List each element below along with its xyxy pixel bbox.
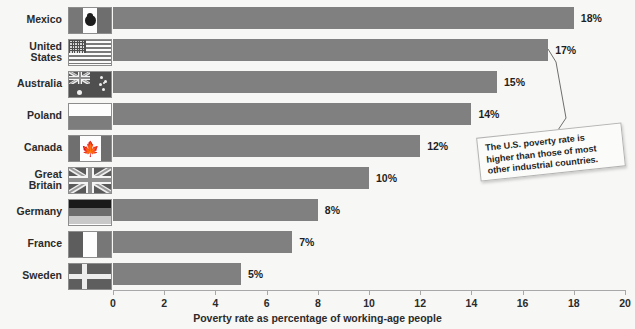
- bar-value-label: 15%: [504, 71, 525, 93]
- bar-value-label: 12%: [427, 135, 448, 157]
- x-axis-tick: [113, 290, 114, 295]
- country-name-label: Mexico: [26, 14, 68, 26]
- flag-mexico-icon: [68, 7, 112, 34]
- flag-france-icon: [68, 231, 112, 258]
- bar-poland: [113, 103, 471, 125]
- country-name-label: Great Britain: [0, 169, 68, 192]
- flag-great-britain-icon: [68, 167, 112, 194]
- x-axis-tick: [215, 290, 216, 295]
- flag-germany-icon: [68, 199, 112, 226]
- bar-value-label: 10%: [376, 167, 397, 189]
- x-axis-tick: [523, 290, 524, 295]
- x-axis-tick: [164, 290, 165, 295]
- country-row-poland: Poland: [0, 100, 112, 132]
- bar-sweden: [113, 263, 241, 285]
- bar-france: [113, 231, 292, 253]
- country-name-label: Canada: [24, 142, 68, 154]
- bar-value-label: 17%: [555, 39, 576, 61]
- x-axis-tick: [625, 290, 626, 295]
- country-label-column: MexicoUnited StatesAustraliaPolandCanada…: [0, 0, 112, 290]
- bar-value-label: 18%: [581, 7, 602, 29]
- country-name-label: Poland: [27, 110, 68, 122]
- x-axis-tick: [318, 290, 319, 295]
- x-axis-tick-label: 6: [264, 297, 270, 309]
- x-axis-tick-label: 0: [110, 297, 116, 309]
- x-axis-tick-label: 4: [212, 297, 218, 309]
- x-axis-tick: [420, 290, 421, 295]
- x-axis-tick-label: 20: [619, 297, 631, 309]
- x-axis-tick: [574, 290, 575, 295]
- x-axis-tick: [471, 290, 472, 295]
- country-row-great-britain: Great Britain: [0, 164, 112, 196]
- bar-canada: [113, 135, 420, 157]
- bar-value-label: 5%: [248, 263, 263, 285]
- x-axis-tick: [369, 290, 370, 295]
- x-axis-tick-label: 8: [315, 297, 321, 309]
- country-row-france: France: [0, 228, 112, 260]
- flag-canada-icon: 🍁: [68, 135, 112, 162]
- x-axis-tick-label: 2: [161, 297, 167, 309]
- bar-value-label: 14%: [478, 103, 499, 125]
- x-axis-tick-label: 16: [517, 297, 529, 309]
- country-name-label: Germany: [16, 206, 68, 218]
- flag-sweden-icon: [68, 263, 112, 290]
- country-row-sweden: Sweden: [0, 260, 112, 292]
- country-row-mexico: Mexico: [0, 4, 112, 36]
- bar-value-label: 7%: [299, 231, 314, 253]
- country-row-united-states: United States: [0, 36, 112, 68]
- x-axis-tick-label: 12: [414, 297, 426, 309]
- country-row-canada: Canada🍁: [0, 132, 112, 164]
- country-name-label: France: [28, 238, 68, 250]
- bar-mexico: [113, 7, 574, 29]
- flag-australia-icon: [68, 71, 112, 98]
- country-name-label: United States: [29, 41, 68, 64]
- country-row-germany: Germany: [0, 196, 112, 228]
- x-axis-tick: [267, 290, 268, 295]
- poverty-rate-bar-chart: MexicoUnited StatesAustraliaPolandCanada…: [0, 0, 635, 329]
- x-axis-tick-label: 14: [466, 297, 478, 309]
- country-row-australia: Australia: [0, 68, 112, 100]
- flag-united-states-icon: [68, 39, 112, 66]
- flag-poland-icon: [68, 103, 112, 130]
- bar-australia: [113, 71, 497, 93]
- bar-value-label: 8%: [325, 199, 340, 221]
- x-axis-title: Poverty rate as percentage of working-ag…: [0, 312, 635, 324]
- bar-germany: [113, 199, 318, 221]
- country-name-label: Australia: [17, 78, 68, 90]
- x-axis-tick-label: 18: [568, 297, 580, 309]
- bar-united-states: [113, 39, 548, 61]
- country-name-label: Sweden: [22, 270, 68, 282]
- x-axis-tick-label: 10: [363, 297, 375, 309]
- bar-great-britain: [113, 167, 369, 189]
